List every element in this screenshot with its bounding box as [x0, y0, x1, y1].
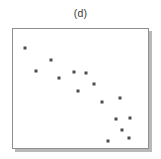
scatter-point	[121, 129, 124, 132]
page-title: (d)	[0, 7, 161, 20]
scatter-point	[76, 89, 79, 92]
scatter-point	[49, 58, 52, 61]
scatter-point	[106, 139, 109, 142]
scatter-point	[72, 70, 75, 73]
scatter-point	[84, 72, 87, 75]
scatter-point	[57, 76, 60, 79]
scatter-point	[34, 69, 37, 72]
scatter-point	[118, 97, 121, 100]
scatter-point	[129, 117, 132, 120]
scatter-point	[128, 137, 131, 140]
scatter-point	[114, 118, 117, 121]
scatter-point	[101, 100, 104, 103]
plot-frame	[12, 28, 149, 149]
scatter-point	[24, 47, 27, 50]
plot-area	[13, 29, 148, 148]
scatter-point	[93, 82, 96, 85]
scatter-plot-figure: (d)	[0, 0, 161, 159]
